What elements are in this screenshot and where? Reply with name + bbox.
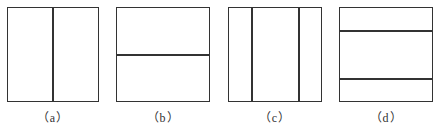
panel-b-label: （b） (133, 110, 193, 126)
panel-a-box (7, 7, 99, 102)
panel-b-horizontal-divider (117, 54, 209, 56)
panel-a-label: （a） (23, 110, 83, 126)
panel-c-label: （c） (245, 110, 305, 126)
panel-c-vertical-divider-2 (298, 8, 300, 101)
panel-d-box (339, 7, 433, 102)
panel-d-horizontal-divider-1 (340, 30, 432, 32)
panel-c-box (228, 7, 322, 102)
panel-c-vertical-divider-1 (251, 8, 253, 101)
panel-a-vertical-divider (52, 8, 54, 101)
panel-d-label: （d） (356, 110, 416, 126)
panel-d-horizontal-divider-2 (340, 78, 432, 80)
panel-b-box (116, 7, 210, 102)
